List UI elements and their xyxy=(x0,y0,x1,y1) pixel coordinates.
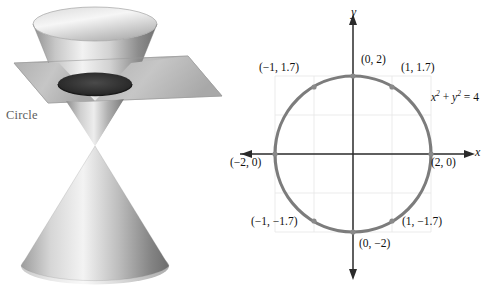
cone-diagram-panel: Circle xyxy=(0,0,235,290)
circle-graph-panel: y x (0, 2) (1, 1.7) (2, 0) (1, −1.7) (0,… xyxy=(235,0,481,290)
point-label-1-neg1.7: (1, −1.7) xyxy=(402,216,442,228)
equation-equals: = 4 xyxy=(461,91,479,103)
x-axis-arrow xyxy=(464,150,475,158)
point-1-1.7 xyxy=(389,84,394,89)
point-neg2-0 xyxy=(272,151,277,156)
point-label-1-1.7: (1, 1.7) xyxy=(401,62,435,74)
y-axis-label: y xyxy=(351,6,356,18)
circle-equation-label: x2 + y2 = 4 xyxy=(431,90,479,103)
point-label-neg1-1.7: (−1, 1.7) xyxy=(259,62,299,74)
cone-neck-below-plane xyxy=(66,99,124,146)
circle-caption-label: Circle xyxy=(6,108,38,123)
lower-cone xyxy=(21,146,169,285)
point-label-2-0: (2, 0) xyxy=(431,157,456,169)
equation-plus: + xyxy=(440,91,452,103)
point-label-neg1-neg1.7: (−1, −1.7) xyxy=(251,216,298,228)
point-label-0-2: (0, 2) xyxy=(361,54,386,66)
y-axis-arrow-negative xyxy=(349,269,357,280)
point-0-2 xyxy=(350,73,355,78)
point-label-0-neg2: (0, −2) xyxy=(359,238,390,250)
point-0-neg2 xyxy=(350,229,355,234)
cutting-plane-front-lip xyxy=(14,56,222,103)
x-axis-label: x xyxy=(475,146,480,158)
point-1-neg1.7 xyxy=(389,218,394,223)
point-neg1-neg1.7 xyxy=(311,218,316,223)
double-cone-illustration xyxy=(0,0,235,290)
figure-root: Circle xyxy=(0,0,481,290)
point-neg1-1.7 xyxy=(311,84,316,89)
point-label-neg2-0: (−2, 0) xyxy=(230,157,261,169)
circle-coordinate-plot xyxy=(235,0,481,290)
